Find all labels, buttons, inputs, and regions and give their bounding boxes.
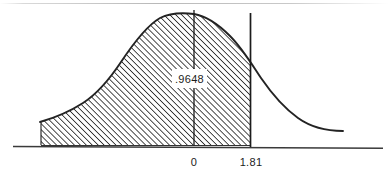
normal-distribution-figure: .9648 0 1.81 — [0, 0, 389, 175]
probability-value: .9648 — [175, 73, 204, 85]
probability-label: .9648 — [172, 69, 207, 88]
x-tick-label-zero: 0 — [191, 157, 197, 168]
x-tick-label-z-score: 1.81 — [240, 157, 263, 168]
x-axis-line — [13, 146, 383, 148]
